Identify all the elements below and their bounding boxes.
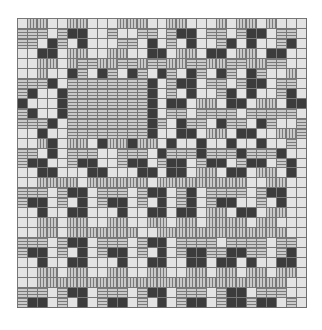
- weave-cell: [226, 118, 236, 128]
- weave-cell: [246, 98, 256, 108]
- weave-cell: [137, 148, 147, 158]
- weave-cell: [176, 118, 186, 128]
- weave-cell: [87, 68, 97, 78]
- weave-cell: [157, 237, 167, 247]
- weave-cell: [196, 277, 206, 287]
- weave-cell: [176, 177, 186, 187]
- weave-cell: [137, 18, 147, 28]
- weave-cell: [137, 227, 147, 237]
- weave-cell: [276, 277, 286, 287]
- weave-cell: [236, 118, 246, 128]
- weave-cell: [196, 38, 206, 48]
- weave-cell: [236, 48, 246, 58]
- weave-cell: [37, 177, 47, 187]
- weave-cell: [147, 267, 157, 277]
- weave-cell: [286, 177, 296, 187]
- weave-cell: [296, 88, 306, 98]
- weave-cell: [87, 98, 97, 108]
- weave-cell: [27, 277, 37, 287]
- weave-cell: [57, 88, 67, 98]
- weave-cell: [226, 38, 236, 48]
- weave-cell: [226, 28, 236, 38]
- weave-cell: [157, 167, 167, 177]
- weave-cell: [87, 138, 97, 148]
- weave-cell: [157, 68, 167, 78]
- weave-cell: [246, 138, 256, 148]
- weave-cell: [17, 297, 27, 307]
- weave-cell: [67, 158, 77, 168]
- weave-cell: [107, 128, 117, 138]
- weave-cell: [17, 257, 27, 267]
- weave-cell: [47, 78, 57, 88]
- weave-cell: [17, 18, 27, 28]
- weave-cell: [157, 138, 167, 148]
- weave-cell: [196, 98, 206, 108]
- weave-cell: [57, 78, 67, 88]
- weave-cell: [147, 197, 157, 207]
- weave-cell: [47, 297, 57, 307]
- weave-cell: [266, 177, 276, 187]
- weave-cell: [216, 78, 226, 88]
- weave-cell: [77, 28, 87, 38]
- weave-cell: [246, 167, 256, 177]
- weave-cell: [176, 78, 186, 88]
- weave-cell: [236, 167, 246, 177]
- weave-cell: [166, 197, 176, 207]
- weave-cell: [276, 98, 286, 108]
- weave-cell: [57, 148, 67, 158]
- weave-cell: [67, 247, 77, 257]
- weave-cell: [157, 98, 167, 108]
- weave-cell: [157, 187, 167, 197]
- weave-cell: [17, 148, 27, 158]
- weave-cell: [17, 197, 27, 207]
- weave-cell: [127, 138, 137, 148]
- weave-cell: [276, 118, 286, 128]
- weave-cell: [166, 227, 176, 237]
- weave-cell: [77, 177, 87, 187]
- weave-cell: [17, 217, 27, 227]
- weave-cell: [286, 247, 296, 257]
- weave-cell: [117, 78, 127, 88]
- weave-cell: [67, 58, 77, 68]
- weave-cell: [186, 237, 196, 247]
- weave-cell: [127, 158, 137, 168]
- weave-cell: [77, 227, 87, 237]
- weave-cell: [17, 167, 27, 177]
- weave-cell: [286, 237, 296, 247]
- weave-cell: [117, 128, 127, 138]
- weave-cell: [216, 187, 226, 197]
- weave-cell: [87, 217, 97, 227]
- weave-cell: [97, 138, 107, 148]
- weave-cell: [37, 187, 47, 197]
- weave-cell: [246, 88, 256, 98]
- weave-cell: [127, 88, 137, 98]
- weave-cell: [216, 68, 226, 78]
- weave-cell: [37, 38, 47, 48]
- weave-cell: [57, 247, 67, 257]
- weave-cell: [67, 257, 77, 267]
- weave-cell: [37, 48, 47, 58]
- weave-cell: [226, 108, 236, 118]
- weave-cell: [87, 247, 97, 257]
- weave-cell: [256, 138, 266, 148]
- weave-cell: [117, 158, 127, 168]
- weave-cell: [47, 187, 57, 197]
- weave-cell: [276, 158, 286, 168]
- weave-cell: [256, 128, 266, 138]
- weave-cell: [57, 287, 67, 297]
- weave-cell: [87, 267, 97, 277]
- weave-cell: [276, 207, 286, 217]
- weave-cell: [176, 58, 186, 68]
- weave-cell: [17, 38, 27, 48]
- weave-cell: [286, 108, 296, 118]
- weave-cell: [276, 138, 286, 148]
- weave-cell: [127, 78, 137, 88]
- weave-cell: [256, 18, 266, 28]
- weave-cell: [226, 138, 236, 148]
- weave-cell: [256, 68, 266, 78]
- weave-cell: [276, 187, 286, 197]
- weave-cell: [286, 38, 296, 48]
- weave-cell: [266, 38, 276, 48]
- weave-cell: [137, 48, 147, 58]
- weave-cell: [196, 227, 206, 237]
